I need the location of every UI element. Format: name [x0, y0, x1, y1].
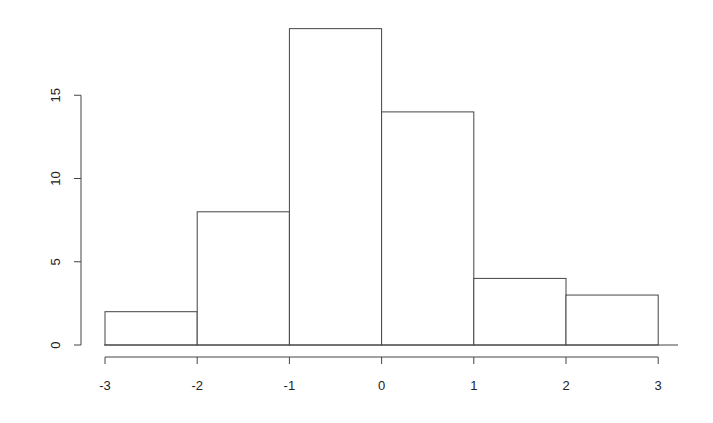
histogram-bar	[197, 212, 289, 345]
x-tick-label: 0	[378, 378, 385, 393]
y-axis: 051015	[48, 88, 81, 349]
y-tick-label: 5	[48, 258, 63, 265]
x-tick-label: 1	[470, 378, 477, 393]
histogram-bar	[105, 312, 197, 345]
histogram-bar	[289, 29, 381, 345]
x-tick-label: 3	[655, 378, 662, 393]
histogram-bars	[105, 29, 658, 345]
y-tick-label: 10	[48, 171, 63, 185]
x-tick-label: -2	[191, 378, 203, 393]
x-tick-label: 2	[562, 378, 569, 393]
histogram-bar	[382, 112, 474, 345]
x-tick-label: -1	[284, 378, 296, 393]
histogram-chart: -3-2-10123 051015	[0, 0, 713, 423]
histogram-bar	[474, 278, 566, 345]
y-tick-label: 0	[48, 341, 63, 348]
x-tick-label: -3	[99, 378, 111, 393]
y-tick-label: 15	[48, 88, 63, 102]
histogram-bar	[566, 295, 658, 345]
x-axis: -3-2-10123	[99, 357, 662, 393]
